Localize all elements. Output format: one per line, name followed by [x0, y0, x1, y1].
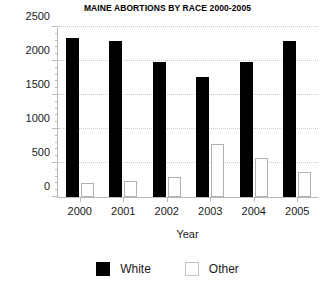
y-gridline: [58, 26, 318, 27]
bar-other-2000: [81, 183, 94, 197]
y-axis-minor-tick: [55, 101, 58, 102]
bar-white-2001: [109, 41, 122, 197]
x-axis-label-2005: 2005: [285, 205, 309, 217]
x-axis-label-2002: 2002: [155, 205, 179, 217]
x-axis-tick: [167, 197, 168, 202]
x-axis-tick: [80, 197, 81, 202]
x-axis-tick: [210, 197, 211, 202]
legend-item-white: White: [96, 262, 151, 276]
y-axis-label: 2500: [26, 10, 50, 22]
y-axis-minor-tick: [55, 135, 58, 136]
y-axis-tick: [52, 26, 58, 27]
x-axis-title: Year: [57, 228, 318, 240]
x-axis-label-2003: 2003: [198, 205, 222, 217]
y-axis-minor-tick: [55, 108, 58, 109]
bar-other-2003: [211, 144, 224, 197]
bar-white-2002: [153, 62, 166, 197]
x-axis-label-2000: 2000: [68, 205, 92, 217]
y-axis-minor-tick: [55, 87, 58, 88]
plot-area: 0500100015002000250020002001200220032004…: [57, 28, 318, 198]
y-axis-label: 0: [44, 180, 50, 192]
y-axis-label: 1000: [26, 112, 50, 124]
bar-white-2000: [66, 38, 79, 197]
y-gridline: [58, 162, 318, 163]
y-gridline: [58, 94, 318, 95]
y-axis-tick: [52, 162, 58, 163]
y-axis-minor-tick: [55, 169, 58, 170]
y-axis-minor-tick: [55, 114, 58, 115]
bar-chart: MAINE ABORTIONS BY RACE 2000-2005 050010…: [0, 0, 335, 300]
bar-other-2001: [124, 181, 137, 197]
y-axis-minor-tick: [55, 80, 58, 81]
legend-swatch-icon-other: [185, 262, 199, 276]
bar-white-2004: [240, 62, 253, 197]
legend-label: Other: [209, 262, 239, 276]
y-axis-tick: [52, 196, 58, 197]
y-axis-label: 2000: [26, 44, 50, 56]
y-axis-label: 500: [32, 146, 50, 158]
y-axis-tick: [52, 94, 58, 95]
legend-swatch-icon-white: [96, 262, 110, 276]
legend-item-other: Other: [185, 262, 239, 276]
y-axis-minor-tick: [55, 67, 58, 68]
y-gridline: [58, 60, 318, 61]
x-axis-label-2001: 2001: [111, 205, 135, 217]
chart-title: MAINE ABORTIONS BY RACE 2000-2005: [0, 3, 335, 13]
y-gridline: [58, 128, 318, 129]
legend-label: White: [120, 262, 151, 276]
bar-other-2002: [168, 177, 181, 197]
bar-white-2003: [196, 77, 209, 197]
y-axis-minor-tick: [55, 182, 58, 183]
y-axis-minor-tick: [55, 148, 58, 149]
y-axis-minor-tick: [55, 53, 58, 54]
bar-white-2005: [283, 41, 296, 197]
y-axis-minor-tick: [55, 46, 58, 47]
y-axis-minor-tick: [55, 74, 58, 75]
y-axis-minor-tick: [55, 121, 58, 122]
y-axis-minor-tick: [55, 40, 58, 41]
x-axis-label-2004: 2004: [242, 205, 266, 217]
y-axis-minor-tick: [55, 155, 58, 156]
chart-legend: WhiteOther: [0, 262, 335, 276]
y-axis-minor-tick: [55, 33, 58, 34]
y-axis-tick: [52, 128, 58, 129]
y-axis-minor-tick: [55, 176, 58, 177]
bar-other-2004: [255, 158, 268, 197]
x-axis-tick: [297, 197, 298, 202]
x-axis-tick: [123, 197, 124, 202]
y-axis-minor-tick: [55, 142, 58, 143]
x-axis-tick: [254, 197, 255, 202]
bar-other-2005: [298, 172, 311, 197]
y-axis-tick: [52, 60, 58, 61]
y-axis-label: 1500: [26, 78, 50, 90]
y-axis-minor-tick: [55, 189, 58, 190]
